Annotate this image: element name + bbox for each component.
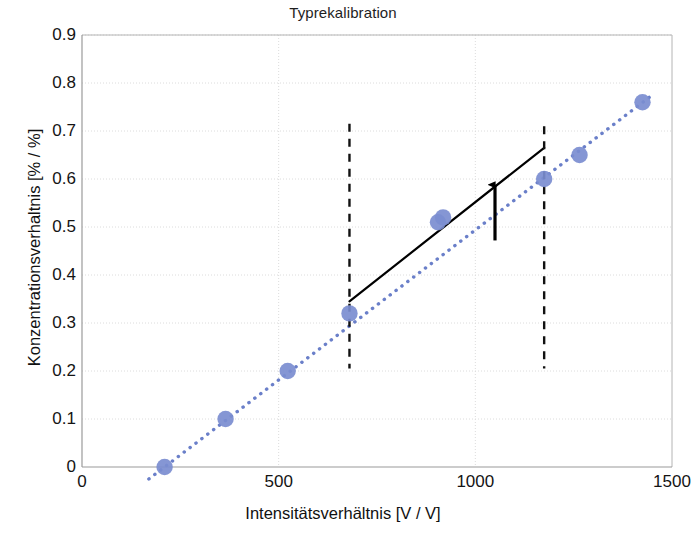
data-point-marker	[280, 363, 296, 379]
data-point-marker	[156, 459, 172, 475]
data-point-marker	[435, 209, 451, 225]
data-point-marker	[536, 171, 552, 187]
annotation-layer	[349, 124, 544, 369]
gridlines	[82, 35, 672, 467]
axis-lines	[82, 35, 672, 467]
data-point-marker	[341, 305, 357, 321]
data-point-marker	[217, 411, 233, 427]
data-point-marker	[634, 94, 650, 110]
data-point-marker	[571, 147, 587, 163]
series-data-points	[156, 94, 650, 475]
